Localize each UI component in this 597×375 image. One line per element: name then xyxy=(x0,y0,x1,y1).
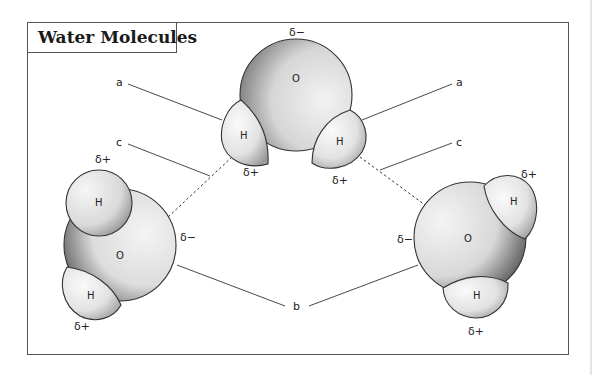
hydrogen-bond-left xyxy=(167,157,232,218)
top-hydrogen-left-label: H xyxy=(240,130,248,141)
right-hydrogen-bottom-label: H xyxy=(473,290,481,301)
leader-c-left xyxy=(128,144,210,176)
hydrogen-bond-right xyxy=(360,157,425,205)
top-hydrogen-left-charge: δ+ xyxy=(243,166,259,179)
left-hydrogen-top-charge: δ+ xyxy=(95,153,111,166)
right-oxygen-charge: δ− xyxy=(397,233,413,246)
water-molecules-diagram: Water Molecules a c a c b O H H δ− δ+ δ+… xyxy=(0,0,597,375)
left-hydrogen-bottom-label: H xyxy=(87,290,95,301)
top-hydrogen-right-label: H xyxy=(336,136,344,147)
top-oxygen-charge: δ− xyxy=(289,26,305,39)
label-a-left: a xyxy=(116,76,123,89)
right-oxygen-label: O xyxy=(464,233,472,244)
leader-b-right xyxy=(309,265,418,306)
leader-b-left xyxy=(177,265,285,306)
label-a-right: a xyxy=(456,76,463,89)
leader-a-right xyxy=(362,84,452,120)
leader-a-left xyxy=(128,84,222,120)
top-oxygen-label: O xyxy=(292,73,300,84)
left-water-molecule: H O H δ+ δ− δ+ xyxy=(62,153,196,333)
diagram-title: Water Molecules xyxy=(37,27,197,47)
left-hydrogen-top-label: H xyxy=(95,197,103,208)
left-hydrogen-bottom-charge: δ+ xyxy=(74,320,90,333)
left-oxygen-label: O xyxy=(116,250,124,261)
top-hydrogen-right-charge: δ+ xyxy=(332,174,348,187)
left-oxygen-charge: δ− xyxy=(180,231,196,244)
right-hydrogen-bottom-charge: δ+ xyxy=(468,325,484,338)
top-water-molecule: O H H δ− δ+ δ+ xyxy=(221,26,366,187)
right-hydrogen-top-charge: δ+ xyxy=(521,168,537,181)
label-c-right: c xyxy=(456,136,462,149)
label-b: b xyxy=(293,300,300,313)
leader-c-right xyxy=(380,143,452,170)
right-water-molecule: H O H δ+ δ− δ+ xyxy=(397,168,537,338)
label-c-left: c xyxy=(116,136,122,149)
right-hydrogen-top-label: H xyxy=(510,196,518,207)
